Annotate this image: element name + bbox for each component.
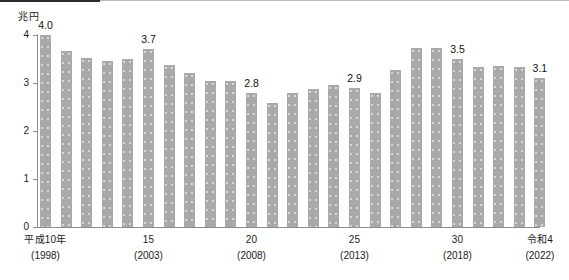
bar	[287, 93, 298, 227]
x-axis-label: 15(2003)	[111, 233, 187, 262]
bar-chart: 兆円 01234 4.03.72.82.93.53.1 平成10年(1998)1…	[0, 0, 569, 280]
x-axis-label-year: (2022)	[502, 249, 569, 262]
bar	[411, 48, 422, 227]
bar	[514, 67, 525, 227]
y-axis-tick-label: 1	[15, 174, 29, 184]
y-axis-tick	[33, 227, 38, 228]
bar-value-label: 3.5	[445, 44, 471, 55]
x-axis-label-year: (1998)	[8, 249, 84, 262]
x-axis-label: 令和4(2022)	[502, 233, 569, 262]
bar	[122, 59, 133, 227]
bar-value-label: 3.1	[527, 63, 553, 74]
bar-value-label: 3.7	[136, 34, 162, 45]
y-axis-tick-label: 4	[15, 30, 29, 40]
bar	[184, 73, 195, 227]
bar	[534, 78, 545, 227]
bar	[370, 93, 381, 227]
x-axis-label-year: (2003)	[111, 249, 187, 262]
x-axis-label-era: 25	[317, 233, 393, 246]
bar	[431, 48, 442, 227]
bar	[246, 93, 257, 227]
y-axis-tick-label: 2	[15, 126, 29, 136]
bar	[81, 58, 92, 227]
bar	[473, 67, 484, 227]
x-axis-line	[37, 227, 540, 228]
bar	[40, 35, 51, 227]
y-axis-tick-label: 0	[15, 222, 29, 232]
bar	[308, 89, 319, 227]
bar	[205, 81, 216, 227]
x-axis-label: 20(2008)	[214, 233, 290, 262]
y-axis-tick	[33, 83, 38, 84]
bar	[143, 49, 154, 227]
bar-value-label: 4.0	[33, 20, 59, 31]
x-axis-label-year: (2008)	[214, 249, 290, 262]
x-axis-label-year: (2013)	[317, 249, 393, 262]
bar	[452, 59, 463, 227]
bar	[267, 103, 278, 227]
y-axis-tick-label: 3	[15, 78, 29, 88]
x-axis-label-era: 15	[111, 233, 187, 246]
x-axis-label: 25(2013)	[317, 233, 393, 262]
y-axis-tick	[33, 131, 38, 132]
y-axis-tick	[33, 179, 38, 180]
bar	[390, 70, 401, 227]
x-axis-label-era: 令和4	[502, 233, 569, 246]
bar-value-label: 2.9	[342, 73, 368, 84]
bar	[164, 65, 175, 227]
bar	[225, 81, 236, 227]
bar	[493, 66, 504, 227]
bar	[102, 61, 113, 227]
x-axis-label: 平成10年(1998)	[8, 233, 84, 262]
plot-area: 01234 4.03.72.82.93.53.1 平成10年(1998)15(2…	[0, 0, 569, 280]
x-axis-label-year: (2018)	[420, 249, 496, 262]
x-axis-label-era: 30	[420, 233, 496, 246]
bar	[61, 51, 72, 227]
y-axis-tick	[33, 35, 38, 36]
x-axis-label: 30(2018)	[420, 233, 496, 262]
bar	[328, 85, 339, 227]
x-axis-label-era: 平成10年	[8, 233, 84, 246]
bar	[349, 88, 360, 227]
x-axis-label-era: 20	[214, 233, 290, 246]
bar-value-label: 2.8	[239, 78, 265, 89]
